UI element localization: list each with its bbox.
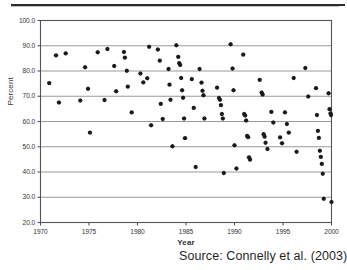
data-point [158, 58, 162, 62]
data-point [178, 63, 182, 67]
data-point [123, 55, 127, 59]
data-point [199, 80, 203, 84]
data-point [234, 166, 238, 170]
data-point [283, 110, 287, 114]
data-point [315, 113, 319, 117]
data-point [180, 88, 184, 92]
data-point [190, 77, 194, 81]
data-point [231, 88, 235, 92]
data-point [64, 51, 68, 55]
data-point [303, 66, 307, 70]
y-axis-tick-label: 30.0 [5, 193, 35, 200]
data-point [96, 50, 100, 54]
data-point [159, 102, 163, 106]
data-point [280, 141, 284, 145]
data-point [166, 67, 170, 71]
x-axis-tick-label: 2000 [317, 228, 347, 235]
data-point [138, 71, 142, 75]
data-point [156, 47, 160, 51]
data-point [181, 96, 185, 100]
data-point-layer [47, 42, 334, 204]
data-point [246, 135, 250, 139]
data-point [122, 50, 126, 54]
data-point [161, 117, 165, 121]
data-point [176, 55, 180, 59]
data-point [88, 130, 92, 134]
data-point [241, 52, 245, 56]
data-point [194, 165, 198, 169]
x-axis-tick-label: 1980 [123, 228, 153, 235]
data-point [321, 172, 325, 176]
data-point [215, 85, 219, 89]
data-point [228, 42, 232, 46]
x-axis-tick-label: 1995 [268, 228, 298, 235]
y-axis-tick-label: 40.0 [5, 168, 35, 175]
data-point [114, 89, 118, 93]
data-point [243, 113, 247, 117]
data-point [147, 45, 151, 49]
data-point [102, 98, 106, 102]
data-point [329, 113, 333, 117]
data-point [248, 157, 252, 161]
data-point [168, 98, 172, 102]
data-point [219, 103, 223, 107]
data-point [320, 162, 324, 166]
data-point [222, 171, 226, 175]
data-point [200, 88, 204, 92]
source-note: Source: Connelly et al. (2003) [179, 249, 347, 263]
data-point [179, 76, 183, 80]
data-point [105, 47, 109, 51]
data-point [278, 135, 282, 139]
data-point [327, 107, 331, 111]
data-point [54, 53, 58, 57]
y-axis-tick-label: 20.0 [5, 219, 35, 226]
y-axis-tick-label: 100.0 [5, 17, 35, 24]
y-axis-tick-label: 70.0 [5, 92, 35, 99]
data-point [322, 197, 326, 201]
data-point [201, 93, 205, 97]
data-point [125, 69, 129, 73]
x-axis-title: Year [40, 238, 332, 247]
data-point [319, 155, 323, 159]
data-point [220, 112, 224, 116]
data-point [192, 106, 196, 110]
data-point [167, 82, 171, 86]
data-point [221, 116, 225, 120]
x-axis-tick-label: 1985 [171, 228, 201, 235]
data-point [314, 86, 318, 90]
data-point [145, 76, 149, 80]
data-point [83, 65, 87, 69]
data-point [141, 80, 145, 84]
data-point [244, 118, 248, 122]
data-point [271, 120, 275, 124]
data-point [182, 116, 186, 120]
scatter-plot-canvas [0, 0, 345, 240]
data-point [218, 98, 222, 102]
data-point [291, 76, 295, 80]
data-point [197, 67, 201, 71]
data-point [265, 147, 269, 151]
data-point [318, 149, 322, 153]
data-point [263, 141, 267, 145]
data-point [260, 92, 264, 96]
data-point [294, 150, 298, 154]
scatter-plot: Percent Year 20.030.040.050.060.070.080.… [0, 0, 345, 240]
data-point [269, 110, 273, 114]
x-axis-tick-label: 1975 [74, 228, 104, 235]
y-axis-tick-label: 80.0 [5, 67, 35, 74]
data-point [202, 116, 206, 120]
data-point [258, 78, 262, 82]
data-point [317, 136, 321, 140]
data-point [183, 136, 187, 140]
data-point [285, 122, 289, 126]
data-point [149, 123, 153, 127]
data-point [126, 84, 130, 88]
data-point [306, 94, 310, 98]
data-point [232, 143, 236, 147]
data-point [78, 98, 82, 102]
data-point [326, 91, 330, 95]
y-axis-tick-label: 90.0 [5, 42, 35, 49]
data-point [47, 81, 51, 85]
data-point [329, 200, 333, 204]
